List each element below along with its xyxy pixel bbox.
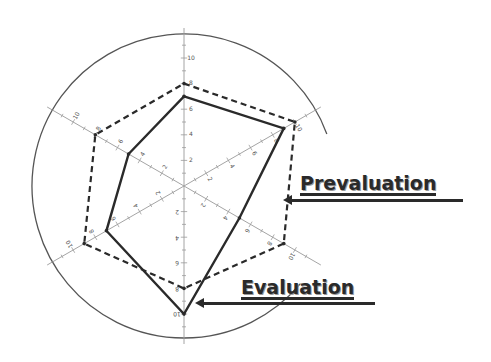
svg-text:6: 6	[244, 227, 252, 234]
svg-text:4: 4	[175, 235, 179, 242]
prevaluation-arrow-icon	[291, 199, 463, 202]
svg-text:2: 2	[199, 202, 207, 209]
svg-text:10: 10	[187, 54, 195, 61]
svg-text:6: 6	[175, 260, 179, 267]
svg-text:2: 2	[189, 156, 193, 163]
svg-text:2: 2	[175, 209, 179, 216]
svg-text:6: 6	[189, 105, 193, 112]
svg-text:10: 10	[287, 251, 297, 261]
prevaluation-label-text: Prevaluation	[300, 172, 436, 194]
svg-text:6: 6	[251, 150, 259, 157]
svg-text:4: 4	[131, 202, 139, 209]
evaluation-label-text: Evaluation	[241, 276, 354, 298]
svg-text:2: 2	[206, 175, 214, 182]
svg-text:4: 4	[189, 130, 193, 137]
svg-text:4: 4	[138, 150, 146, 157]
axis-line	[184, 186, 321, 265]
svg-text:10: 10	[71, 110, 81, 120]
svg-text:4: 4	[222, 215, 230, 222]
evaluation-label: Evaluation	[241, 276, 354, 300]
svg-text:8: 8	[266, 240, 274, 247]
svg-text:10: 10	[294, 123, 304, 133]
svg-text:10: 10	[64, 239, 74, 249]
evaluation-arrow-icon	[203, 302, 375, 305]
prevaluation-label: Prevaluation	[300, 172, 436, 196]
svg-text:6: 6	[116, 138, 124, 145]
svg-text:8: 8	[87, 228, 95, 235]
svg-text:2: 2	[161, 163, 169, 170]
prevaluation-polygon	[84, 84, 295, 289]
svg-text:4: 4	[229, 163, 237, 170]
svg-text:2: 2	[154, 190, 162, 197]
svg-text:10: 10	[173, 311, 181, 318]
